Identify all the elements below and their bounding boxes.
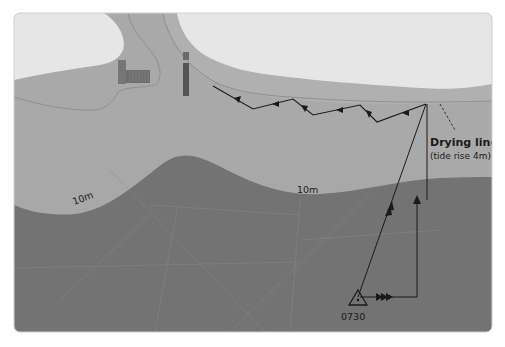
nautical-chart: Drying line (tide rise 4m) 10m 10m 0730 xyxy=(0,0,505,347)
depth-label-mid: 10m xyxy=(297,184,318,195)
start-time-label: 0730 xyxy=(341,311,365,322)
drying-line-title: Drying line xyxy=(430,136,498,149)
pier xyxy=(183,52,189,96)
drying-line-subtitle: (tide rise 4m) xyxy=(430,151,491,161)
